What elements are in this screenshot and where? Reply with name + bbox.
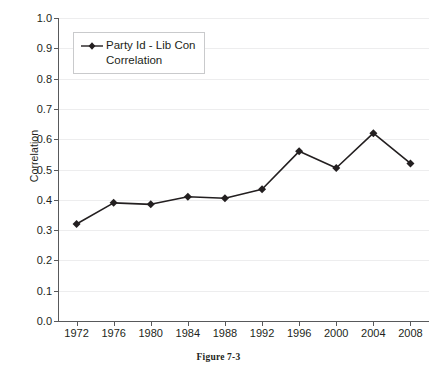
y-axis-tick-label: 0.0 (26, 316, 52, 327)
y-axis-tick-labels: 0.00.10.20.30.40.50.60.70.80.91.0 (22, 0, 52, 371)
x-axis-tick-mark (336, 322, 337, 326)
data-point-marker (184, 193, 192, 201)
y-axis-tick-label: 0.6 (26, 134, 52, 145)
x-axis-tick-mark (373, 322, 374, 326)
data-point-marker (147, 200, 155, 208)
y-axis-tick-label: 0.8 (26, 74, 52, 85)
figure-caption: Figure 7-3 (0, 352, 437, 362)
data-point-marker (110, 199, 118, 207)
series-line (77, 133, 411, 224)
y-axis-tick-label: 0.3 (26, 225, 52, 236)
figure-7-3: Correlation 0.00.10.20.30.40.50.60.70.80… (0, 0, 437, 371)
legend: Party Id - Lib Con Correlation (73, 32, 205, 74)
y-axis-tick-label: 0.7 (26, 104, 52, 115)
x-axis-tick-mark (188, 322, 189, 326)
x-axis-tick-mark (262, 322, 263, 326)
y-axis-tick-label: 0.1 (26, 286, 52, 297)
x-axis-tick-mark (225, 322, 226, 326)
data-point-marker (221, 194, 229, 202)
y-axis-tick-label: 0.9 (26, 43, 52, 54)
x-axis-tick-mark (77, 322, 78, 326)
y-axis-tick-label: 0.4 (26, 195, 52, 206)
y-axis-tick-label: 0.5 (26, 165, 52, 176)
x-axis-tick-mark (151, 322, 152, 326)
data-point-marker (73, 220, 81, 228)
x-axis-tick-mark (410, 322, 411, 326)
legend-entry: Party Id - Lib Con Correlation (81, 38, 195, 67)
legend-label: Party Id - Lib Con Correlation (106, 38, 195, 67)
x-axis-tick-mark (114, 322, 115, 326)
x-axis-tick-mark (299, 322, 300, 326)
y-axis-tick-label: 0.2 (26, 255, 52, 266)
diamond-marker-icon (81, 42, 103, 50)
y-axis-tick-label: 1.0 (26, 13, 52, 24)
x-axis-tick-label: 2008 (388, 327, 432, 340)
x-axis-tick-labels: 1972197619801984198819921996200020042008 (58, 327, 429, 343)
